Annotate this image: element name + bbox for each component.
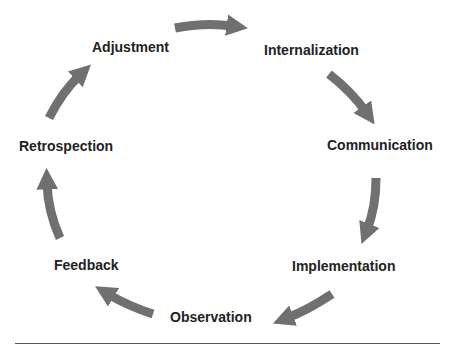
cycle-arrows — [0, 0, 451, 348]
bottom-divider — [15, 343, 440, 344]
stage-adjustment: Adjustment — [92, 39, 169, 55]
stage-implementation: Implementation — [292, 258, 395, 274]
arrow-communication-to-implementation-icon — [367, 178, 376, 230]
stage-communication: Communication — [327, 137, 433, 153]
stage-observation: Observation — [170, 309, 252, 325]
stage-internalization: Internalization — [264, 42, 359, 58]
stage-feedback: Feedback — [54, 257, 119, 273]
arrow-internalization-to-communication-icon — [329, 74, 366, 112]
arrow-implementation-to-observation-icon — [287, 294, 332, 318]
cycle-diagram: Adjustment Internalization Communication… — [0, 0, 451, 348]
arrow-feedback-to-retrospection-icon — [47, 183, 60, 238]
arrow-retrospection-to-adjustment-icon — [49, 75, 80, 118]
arrow-adjustment-to-internalization-icon — [175, 24, 233, 28]
arrow-observation-to-feedback-icon — [108, 294, 153, 314]
stage-retrospection: Retrospection — [19, 138, 113, 154]
